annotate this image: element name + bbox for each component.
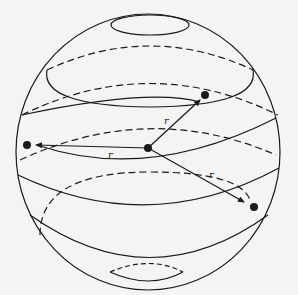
vector-lower (148, 148, 244, 202)
latitude-circle-bottom-front (110, 272, 183, 281)
latitude-upper-front (47, 70, 254, 107)
center-point (144, 144, 152, 152)
label-r-lower: r (209, 169, 215, 180)
latitude-circle-bottom-back (110, 264, 183, 273)
latitude-bottom-front (30, 215, 268, 258)
latitude-upper-back (47, 46, 253, 70)
sphere-diagram: r r r (0, 0, 298, 295)
label-r-upper: r (164, 115, 170, 126)
latitude-circle-top (111, 15, 189, 35)
latitude-mid-upper-back (22, 84, 278, 116)
surface-point-upper (201, 91, 209, 99)
surface-point-left (23, 141, 31, 149)
surface-point-lower (250, 203, 258, 211)
latitude-lower-back (40, 172, 250, 235)
